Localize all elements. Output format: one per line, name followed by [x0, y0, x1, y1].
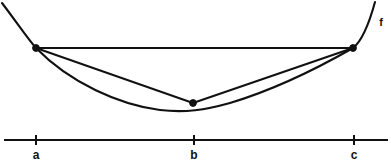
axis-tick-label-c: c: [351, 149, 358, 161]
figure-canvas: [0, 0, 391, 165]
point-marker-c: [350, 45, 357, 52]
axis-tick-label-a: a: [33, 149, 40, 161]
chord-b-c: [193, 48, 353, 103]
point-marker-b: [190, 100, 197, 107]
point-marker-a: [33, 45, 40, 52]
curve-label-f: f: [379, 17, 383, 28]
axis-tick-label-b: b: [190, 149, 197, 161]
convex-function-figure: a b c f: [0, 0, 391, 165]
chord-a-b: [36, 48, 193, 103]
